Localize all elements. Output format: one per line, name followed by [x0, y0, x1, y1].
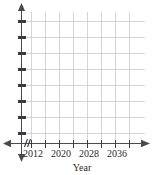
x-axis-left-arrow-icon	[3, 140, 11, 147]
coordinate-grid-chart: 2012 2020 2028 2036 Year	[0, 0, 159, 175]
grid-lines-horizontal	[22, 22, 145, 134]
x-tick-label-2012: 2012	[23, 148, 43, 159]
chart-container: 2012 2020 2028 2036 Year	[0, 0, 159, 175]
x-tick-label-2028: 2028	[79, 148, 99, 159]
x-axis-right-arrow-icon	[141, 140, 150, 147]
grid-lines-vertical	[32, 12, 130, 143]
x-axis-title: Year	[73, 162, 92, 173]
x-axis-tick-labels: 2012 2020 2028 2036	[23, 148, 127, 159]
y-axis-line-group	[18, 3, 25, 162]
y-axis-up-arrow-icon	[18, 3, 25, 11]
x-tick-label-2020: 2020	[51, 148, 71, 159]
x-tick-label-2036: 2036	[107, 148, 127, 159]
